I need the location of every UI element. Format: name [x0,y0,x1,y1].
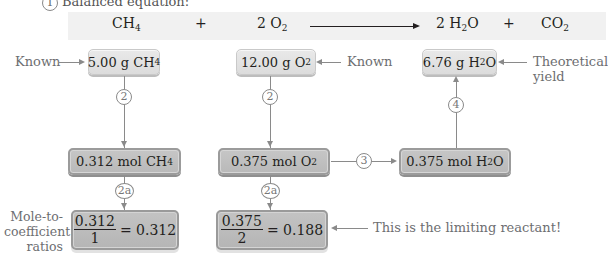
reaction-arrow [310,26,418,27]
arrow-head-down-icon [267,203,273,209]
fraction-ch4: 0.3121 [74,214,116,246]
limiting-reactant-label: This is the limiting reactant! [373,221,561,235]
plus-sign-1: + [195,15,207,31]
product-h2o: 2 H2O [436,15,479,31]
mass-box-ch4: 5.00 g CH4 [88,49,160,75]
reactant-o2: 2 O2 [257,15,288,31]
yield-arrow [503,62,527,63]
known-label-o2: Known [347,55,392,69]
connector-o2-1 [270,76,271,148]
mol-box-o2: 0.375 mol O2 [218,148,330,175]
arrow-head-down-icon [121,141,127,147]
limiting-arrow [336,228,368,229]
step-circle-4: 4 [448,97,464,113]
reactant-ch4: CH4 [112,15,141,31]
step-circle-2a-o2: 2a [261,183,280,199]
mass-box-o2: 12.00 g O2 [236,49,316,75]
known-arrow-ch4 [58,62,80,63]
mole-to-coefficient-label: Mole-to- coefficient ratios [4,209,63,254]
mol-box-h2o: 0.375 mol H2O [399,148,511,175]
connector-h2o [456,81,457,148]
known-label-ch4: Known [15,55,60,69]
step-1-text: Balanced equation: [62,0,189,9]
arrow-head-down-icon [121,203,127,209]
arrow-head-right-icon [79,59,85,65]
plus-sign-2: + [503,15,515,31]
known-arrow-o2 [321,62,341,63]
mass-box-h2o: 6.76 g H2O [422,49,497,75]
arrow-head-down-icon [267,141,273,147]
fraction-o2: 0.3752 [221,214,263,246]
step-circle-2a-ch4: 2a [115,183,134,199]
step-1-circle: 1 [42,0,58,11]
theoretical-yield-label: Theoretical yield [533,54,608,84]
ratio-box-o2: 0.3752 = 0.188 [216,210,328,250]
step-1-label: 1Balanced equation: [42,0,189,11]
ratio-box-ch4: 0.3121 = 0.312 [71,210,179,250]
step-circle-3: 3 [356,153,372,169]
connector-ch4-1 [124,76,125,148]
product-co2: CO2 [541,15,569,31]
arrow-head-right-icon [391,158,397,164]
mol-box-ch4: 0.312 mol CH4 [68,148,181,175]
step-circle-2-ch4: 2 [116,89,132,105]
step-circle-2-o2: 2 [262,89,278,105]
